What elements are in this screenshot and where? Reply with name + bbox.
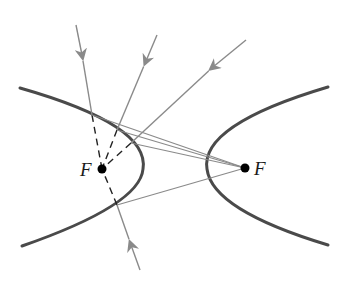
focus-label-right: F xyxy=(254,159,266,178)
dashed-extension-1 xyxy=(92,115,102,169)
incoming-ray-arrow-4 xyxy=(131,245,140,270)
hyperbola-branch-right xyxy=(207,87,328,245)
focus-point-right xyxy=(241,164,250,173)
hyperbola-branches xyxy=(20,87,328,246)
incoming-ray-1 xyxy=(83,61,92,115)
incoming-ray-4 xyxy=(117,205,129,239)
hyperbola-diagram: F F xyxy=(0,0,349,289)
foci-points xyxy=(98,164,250,174)
reflected-ray-2 xyxy=(117,130,245,168)
focus-label-left: F xyxy=(80,160,92,179)
incoming-ray-arrow-1 xyxy=(76,25,82,55)
incoming-rays xyxy=(76,25,246,270)
dashed-extension-4 xyxy=(102,169,117,205)
incoming-ray-2 xyxy=(117,67,144,130)
focus-point-left xyxy=(98,165,107,174)
incoming-ray-arrow-2 xyxy=(146,35,157,61)
reflected-rays xyxy=(92,115,245,205)
dashed-extensions xyxy=(92,115,131,205)
incoming-ray-arrow-3 xyxy=(213,40,246,67)
reflected-ray-1 xyxy=(92,115,245,168)
reflected-ray-3 xyxy=(131,143,245,168)
diagram-graphic xyxy=(0,0,349,289)
